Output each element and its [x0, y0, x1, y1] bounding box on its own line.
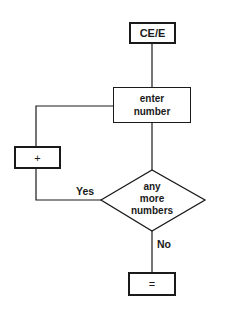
decision-line2: more	[122, 193, 182, 205]
node-ce-e: CE/E	[129, 22, 176, 44]
node-decision-text: any more numbers	[122, 181, 182, 217]
node-enter-number-line1: enter	[140, 92, 164, 105]
node-enter-number-line2: number	[134, 105, 171, 118]
node-equals-label: =	[149, 278, 155, 290]
edge-label-yes: Yes	[76, 185, 94, 197]
node-enter-number: enter number	[113, 87, 191, 123]
decision-line1: any	[122, 181, 182, 193]
edge-plus-to-enter	[36, 106, 113, 146]
node-plus: +	[14, 146, 61, 169]
edge-label-no: No	[157, 238, 171, 250]
node-equals: =	[128, 272, 176, 296]
node-ce-e-label: CE/E	[140, 27, 166, 39]
decision-line3: numbers	[122, 205, 182, 217]
node-plus-label: +	[34, 152, 40, 164]
